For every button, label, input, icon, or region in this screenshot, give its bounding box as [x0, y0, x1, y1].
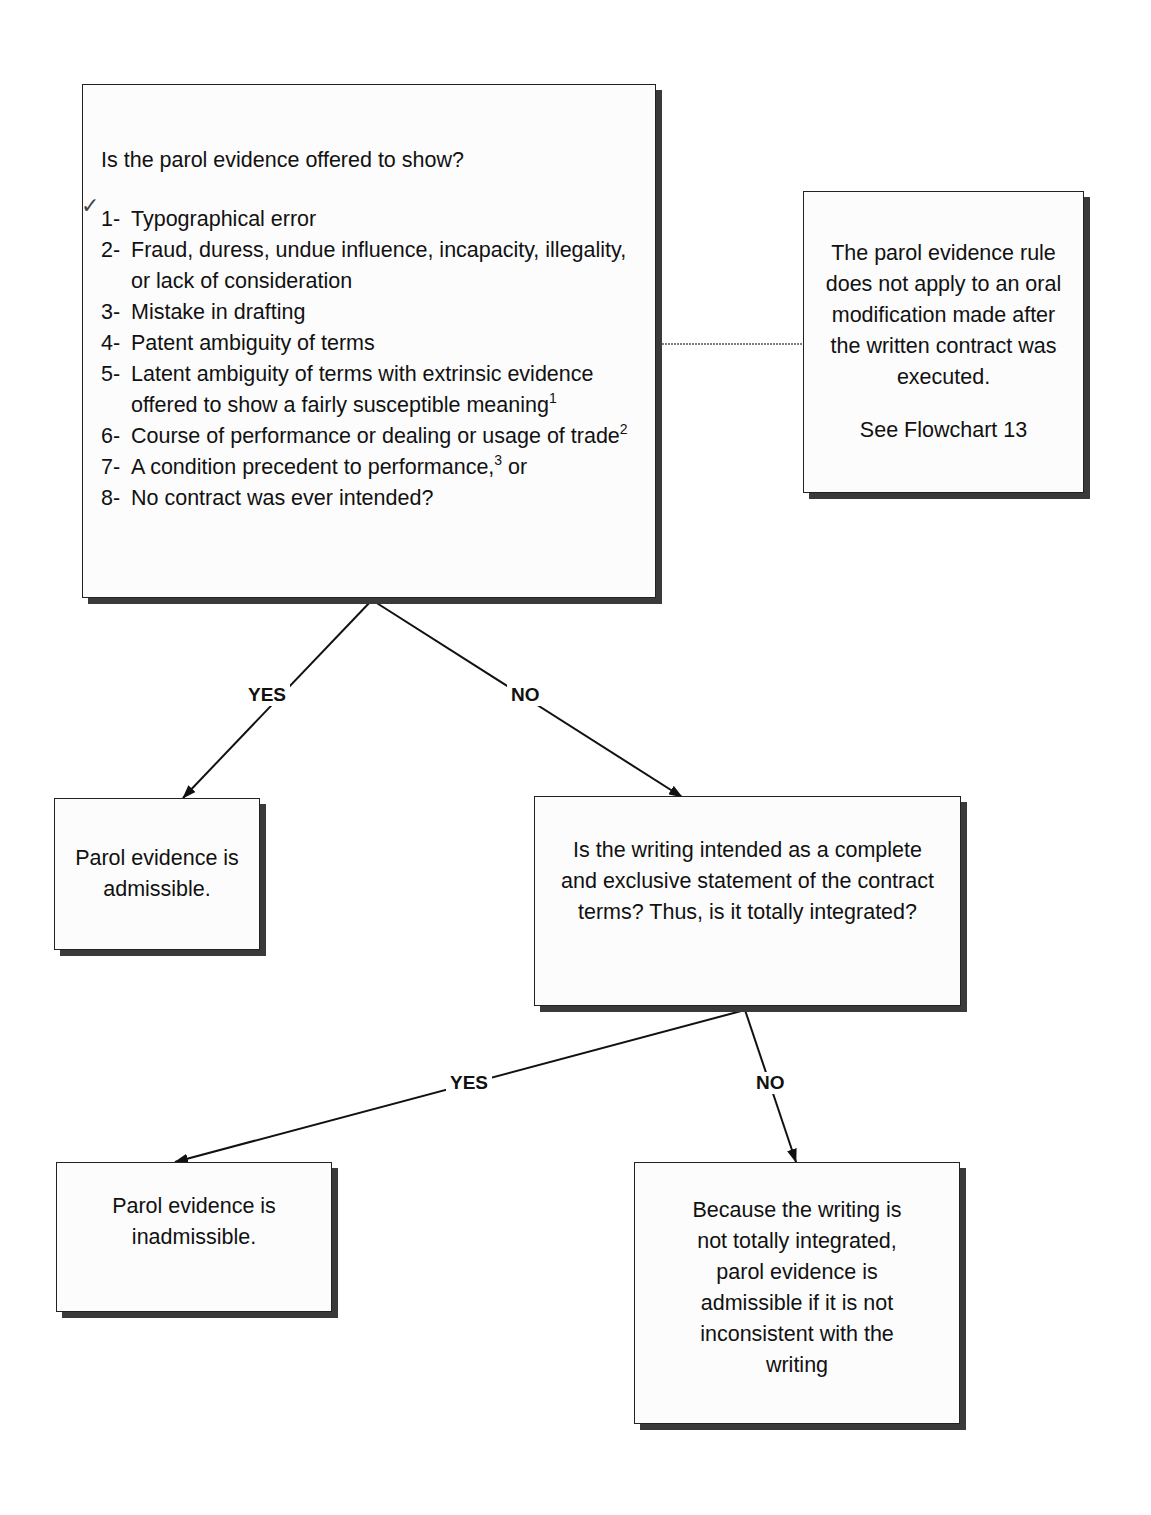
- footnote-3: 3: [494, 452, 502, 468]
- criteria-list: 1-Typographical error 2-Fraud, duress, u…: [101, 204, 631, 514]
- partial-integration-box: Because the writing is not totally integ…: [634, 1162, 960, 1424]
- side-note-box: The parol evidence rule does not apply t…: [803, 191, 1084, 493]
- main-question-title: Is the parol evidence offered to show?: [101, 145, 655, 176]
- inadmissible-box: Parol evidence is inadmissible.: [56, 1162, 332, 1312]
- integration-question-box: Is the writing intended as a complete an…: [534, 796, 961, 1006]
- list-item: 6-Course of performance or dealing or us…: [101, 421, 631, 452]
- list-item: 2-Fraud, duress, undue influence, incapa…: [101, 235, 631, 297]
- list-item: 8-No contract was ever intended?: [101, 483, 631, 514]
- list-item: 7-A condition precedent to performance,3…: [101, 452, 631, 483]
- footnote-2: 2: [620, 421, 628, 437]
- checkmark-icon: ✓: [81, 193, 99, 219]
- side-note-text: The parol evidence rule does not apply t…: [818, 238, 1069, 393]
- no-label-2: NO: [752, 1072, 789, 1094]
- yes-label-2: YES: [446, 1072, 492, 1094]
- admissible-box: Parol evidence is admissible.: [54, 798, 260, 950]
- list-item: 3-Mistake in drafting: [101, 297, 631, 328]
- flowchart-reference: See Flowchart 13: [860, 415, 1027, 446]
- list-item: 4-Patent ambiguity of terms: [101, 328, 631, 359]
- footnote-1: 1: [549, 390, 557, 406]
- main-question-box: Is the parol evidence offered to show? ✓…: [82, 84, 656, 598]
- list-item: 5-Latent ambiguity of terms with extrins…: [101, 359, 631, 421]
- yes-label-1: YES: [244, 684, 290, 706]
- list-item: 1-Typographical error: [101, 204, 631, 235]
- no-label-1: NO: [507, 684, 544, 706]
